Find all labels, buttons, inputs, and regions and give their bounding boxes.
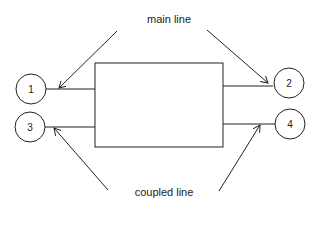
coupled-line-arrow-left: [54, 128, 108, 190]
coupled-line-label: coupled line: [135, 186, 194, 198]
port-4-label: 4: [287, 119, 293, 130]
port-2: 2: [274, 68, 304, 98]
main-line-arrow-left: [59, 31, 117, 88]
coupler-box: [95, 63, 223, 147]
main-line-label: main line: [147, 13, 191, 25]
port-1-label: 1: [28, 84, 34, 95]
coupler-diagram: 1 2 3 4 main line coupled line: [0, 0, 319, 237]
main-line-arrow-right: [207, 30, 268, 83]
port-2-label: 2: [286, 78, 292, 89]
port-3-label: 3: [27, 122, 33, 133]
coupled-line-arrow-right: [219, 125, 260, 191]
port-1: 1: [16, 74, 46, 104]
port-3: 3: [15, 112, 45, 142]
port-4: 4: [275, 109, 305, 139]
